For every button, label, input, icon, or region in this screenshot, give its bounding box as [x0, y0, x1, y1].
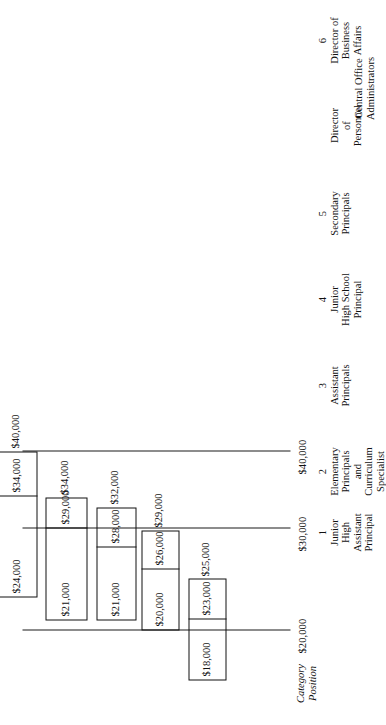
bar-label-min: $20,000 [153, 592, 164, 626]
bar-label-mid: $28,000 [109, 509, 120, 543]
axis-caption-line1: Category [294, 663, 305, 702]
tick-label-30000: $30,000 [296, 516, 307, 551]
axis-caption-line2: Position [306, 666, 317, 701]
bar-divider-mid [45, 527, 87, 528]
bar-label-mid: $23,000 [200, 581, 211, 615]
bar-label-mid: $34,000 [10, 458, 21, 492]
group-label-line1: Central Office [352, 58, 363, 118]
category-number: 3 [316, 345, 328, 425]
bar-divider-mid [96, 546, 136, 547]
bar-label-max: $34,000 [58, 460, 69, 494]
bar-label-mid: $29,000 [59, 490, 70, 524]
tick-label-20000: $20,000 [296, 618, 307, 653]
bar-label-min: $21,000 [109, 582, 120, 616]
table-row[interactable]: $24,000 $34,000 [0, 451, 37, 597]
bar-label-min: $18,000 [200, 642, 211, 676]
tick-label-40000: $40,000 [296, 439, 307, 474]
category-label-5: 5 Secondary Principals [316, 171, 351, 255]
table-row[interactable]: $21,000 $28,000 [96, 507, 136, 620]
bar-label-max: $40,000 [9, 414, 20, 448]
bar-label-mid: $26,000 [153, 531, 164, 565]
gridline-40000 [22, 450, 290, 451]
bar-label-max: $25,000 [199, 542, 210, 576]
table-row[interactable]: $20,000 $26,000 [141, 530, 179, 630]
table-row[interactable]: $21,000 $29,000 [45, 497, 87, 620]
bar-label-max: $32,000 [108, 470, 119, 504]
bar-label-min: $24,000 [10, 559, 21, 593]
bar-label-min: $21,000 [59, 582, 70, 616]
bar-divider-mid [141, 568, 179, 569]
category-number: 6 [316, 0, 328, 80]
category-label-4: 4 Junior High School Principal [316, 257, 362, 341]
category-number: 2 [316, 425, 328, 517]
category-label-2: 2 Elementary Principals and Curriculum S… [316, 425, 386, 517]
axis-caption: Category Position [294, 653, 317, 713]
category-label-3: 3 Assistant Principals [316, 345, 351, 425]
bar-divider-mid [0, 495, 37, 496]
bar-label-max: $29,000 [152, 493, 163, 527]
category-number: 4 [316, 257, 328, 341]
category-number: 5 [316, 171, 328, 255]
group-label-line2: Administrators [364, 57, 375, 120]
group-label-central-office-administrators: Central Office Administrators [352, 23, 375, 153]
bar-divider-mid [188, 618, 226, 619]
table-row[interactable]: $18,000 $23,000 [188, 578, 226, 680]
